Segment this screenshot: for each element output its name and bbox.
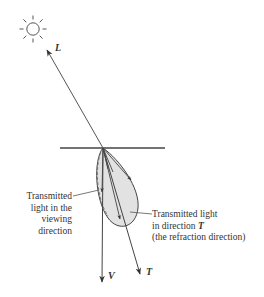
light-vector-L xyxy=(47,50,103,148)
annotation-line: Transmitted xyxy=(6,191,72,203)
annotation-line: direction xyxy=(6,226,72,238)
annotation-vector-T: T xyxy=(198,221,204,231)
annotation-line: light in the xyxy=(6,203,72,215)
annotation-line: in direction T xyxy=(152,221,245,233)
transmission-diagram xyxy=(0,0,264,297)
sun-icon xyxy=(20,16,47,43)
annotation-text: in direction xyxy=(152,221,198,231)
viewing-leader-line xyxy=(73,190,99,196)
annotation-line: (the refraction direction) xyxy=(152,232,245,244)
label-T: T xyxy=(146,266,152,277)
annotation-line: Transmitted light xyxy=(152,209,245,221)
annotation-viewing-direction: Transmitted light in the viewing directi… xyxy=(6,191,72,237)
label-L: L xyxy=(55,42,61,53)
label-V: V xyxy=(108,270,115,281)
annotation-line: viewing xyxy=(6,214,72,226)
annotation-refraction-direction: Transmitted light in direction T (the re… xyxy=(152,209,245,244)
